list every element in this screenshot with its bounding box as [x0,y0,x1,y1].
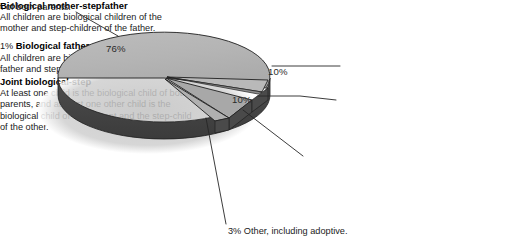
leader-line-both-parents [76,12,118,36]
callout-other-adoptive: 3% Other, including adoptive. [228,226,348,238]
slice-label-10-b: 10% [232,94,252,105]
slice-label-76: 76% [106,43,126,54]
caption-both-parents: n of both parents. [0,1,71,13]
pie-chart-graphic [0,0,505,242]
pie-chart-figure: n of both parents. 76% 10% 10% Biologica… [0,0,505,242]
leader-line-joint [243,110,303,156]
slice-label-10-a: 10% [268,66,288,77]
